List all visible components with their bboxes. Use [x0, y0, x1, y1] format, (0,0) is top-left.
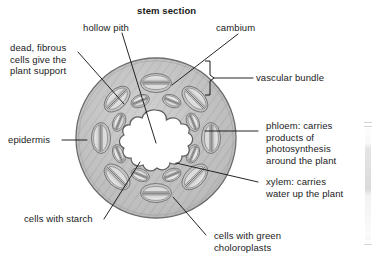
vascular-bundle-outer: [141, 184, 172, 203]
scrollbar-tick: [364, 126, 372, 127]
label-cells-with-starch: cells with starch: [24, 213, 93, 225]
scrollbar-thumb[interactable]: [365, 128, 371, 240]
label-cells-with-chloroplasts: cells with green choloroplasts: [214, 230, 281, 253]
scrollbar-tick: [364, 122, 372, 123]
scrollbar-tick: [364, 244, 372, 245]
label-phloem: phloem: carries products of photosynthes…: [266, 120, 336, 166]
label-cambium: cambium: [216, 22, 255, 34]
vascular-bundle-outer: [202, 123, 221, 154]
diagram-canvas: stem section hollow pith cambium dead, f…: [0, 0, 375, 269]
label-hollow-pith: hollow pith: [83, 22, 129, 34]
label-xylem: xylem: carries water up the plant: [266, 176, 343, 199]
label-vascular-bundle: vascular bundle: [256, 72, 324, 84]
label-dead-fibrous-cells: dead, fibrous cells give the plant suppo…: [10, 42, 66, 77]
vascular-bundle-outer: [141, 74, 172, 93]
figure-title: stem section: [137, 5, 196, 17]
vascular-bundle-outer: [92, 123, 111, 154]
label-epidermis: epidermis: [8, 134, 50, 146]
